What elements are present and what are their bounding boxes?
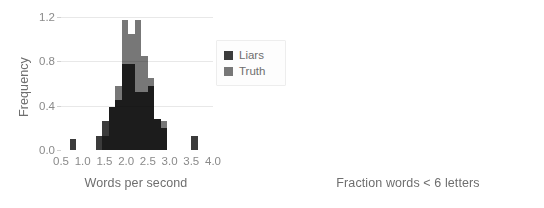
legend-swatch-truth [224,67,233,76]
figure-canvas: Frequency 0.00.40.81.20.51.01.52.02.53.0… [0,0,544,208]
plot-area-left: 0.00.40.81.20.51.01.52.02.53.03.54.0 [61,17,213,150]
y-tick-mark [57,106,61,107]
histogram-bar [191,136,198,150]
histogram-bar [128,64,135,150]
x-tick-label: 3.0 [162,155,178,167]
x-tick-label: 2.5 [140,155,156,167]
histogram-bar [96,136,103,150]
legend-label-truth: Truth [239,65,265,77]
histogram-bar [102,121,109,150]
histogram-bar [70,139,77,150]
gridline [61,17,213,18]
y-tick-mark [57,61,61,62]
histogram-bar [141,92,148,150]
x-tick-label: 3.5 [183,155,199,167]
x-tick-label: 1.5 [96,155,112,167]
legend-label-liars: Liars [239,49,264,61]
x-tick-label: 0.5 [53,155,69,167]
y-tick-label: 1.2 [39,11,55,23]
y-tick-label: 0.8 [39,55,55,67]
x-tick-label: 4.0 [205,155,221,167]
y-tick-mark [57,150,61,151]
y-tick-label: 0.4 [39,100,55,112]
panel-words-per-second: Frequency 0.00.40.81.20.51.01.52.02.53.0… [0,0,272,208]
legend-swatch-liars [224,51,233,60]
histogram-bar [148,86,155,150]
x-axis-label-right: Fraction words < 6 letters [272,176,544,190]
histogram-bar [122,64,129,150]
histogram-bar [154,119,161,150]
y-axis-label-left: Frequency [17,7,35,167]
histogram-bar [109,107,116,150]
legend-item-liars[interactable]: Liars [224,47,278,63]
panel-fraction-short-words: 01020300.050.100.150.200.25 Fraction wor… [272,0,544,208]
histogram-bar [115,100,122,150]
histogram-bar [161,128,168,150]
legend-item-truth[interactable]: Truth [224,63,278,79]
x-axis-label-left: Words per second [0,176,272,190]
y-tick-mark [57,17,61,18]
x-tick-label: 1.0 [75,155,91,167]
x-tick-label: 2.0 [118,155,134,167]
